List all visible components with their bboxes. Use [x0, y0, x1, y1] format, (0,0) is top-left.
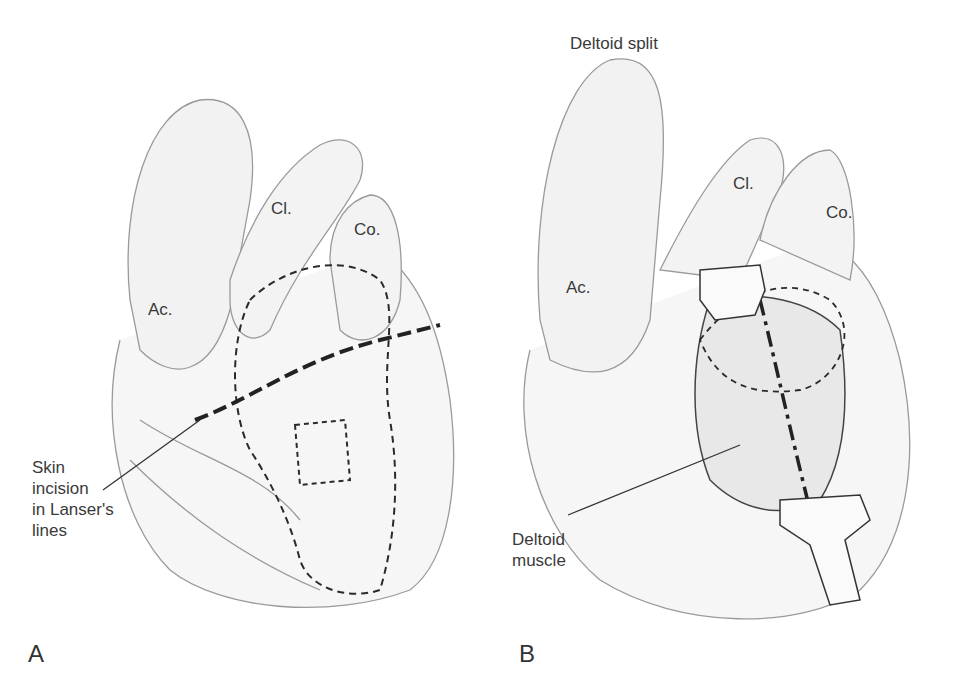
callout-line-2: muscle: [512, 550, 566, 571]
panel-letter-b: B: [519, 640, 535, 668]
callout-skin-incision: Skin incision in Lanser's lines: [32, 457, 114, 541]
callout-line-1: Deltoid: [512, 529, 566, 550]
callout-line-3: in Lanser's: [32, 499, 114, 520]
label-coracoid-b: Co.: [826, 202, 852, 223]
illustration: [0, 0, 980, 686]
label-acromion-b: Ac.: [566, 277, 591, 298]
callout-line-4: lines: [32, 520, 114, 541]
deltoid-opening: [695, 296, 845, 510]
callout-deltoid-muscle: Deltoid muscle: [512, 529, 566, 571]
panel-a-drawing: [112, 100, 453, 608]
panel-b-title: Deltoid split: [570, 33, 658, 54]
label-clavicle-b: Cl.: [733, 173, 754, 194]
label-acromion-a: Ac.: [148, 299, 173, 320]
callout-line-2: incision: [32, 478, 114, 499]
retractor-top: [700, 265, 765, 320]
panel-letter-a: A: [28, 640, 44, 668]
label-clavicle-a: Cl.: [271, 198, 292, 219]
label-coracoid-a: Co.: [354, 219, 380, 240]
callout-line-1: Skin: [32, 457, 114, 478]
